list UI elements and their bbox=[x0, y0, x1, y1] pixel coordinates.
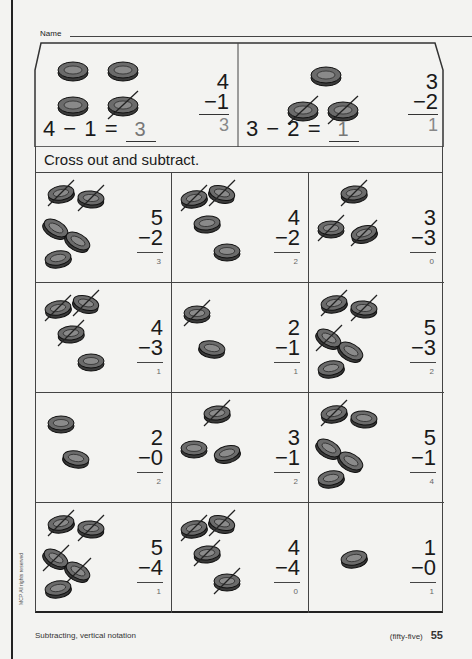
crossed-coin[interactable] bbox=[345, 214, 384, 253]
coin[interactable] bbox=[317, 469, 346, 490]
vertical-problem: 4 −4 0 bbox=[268, 538, 300, 596]
subtrahend: −2 bbox=[131, 228, 163, 248]
coin[interactable] bbox=[193, 215, 220, 234]
crossed-coin[interactable] bbox=[349, 293, 380, 324]
result[interactable]: 3 bbox=[199, 115, 229, 135]
subtrahend: −3 bbox=[131, 338, 163, 358]
answer-rule bbox=[410, 472, 436, 473]
crossed-coin[interactable] bbox=[203, 174, 242, 213]
answer-rule bbox=[410, 362, 436, 363]
example-2-equation: 3 − 2 = 1 bbox=[246, 116, 359, 142]
subtrahend: −3 bbox=[404, 338, 436, 358]
page-footer: (fifty-five)55 bbox=[390, 629, 443, 641]
crossed-coin[interactable] bbox=[44, 176, 79, 211]
crossed-coin[interactable] bbox=[184, 300, 210, 326]
answer[interactable]: 2 bbox=[268, 477, 300, 486]
answer[interactable]: 2 bbox=[268, 257, 300, 266]
coin[interactable] bbox=[350, 410, 377, 429]
crossed-coin[interactable] bbox=[339, 178, 370, 209]
problem-cell: 2 −0 2 bbox=[36, 393, 172, 503]
coin[interactable] bbox=[197, 339, 226, 360]
crossed-coin[interactable] bbox=[56, 318, 87, 349]
result[interactable]: 1 bbox=[408, 115, 438, 135]
coin[interactable] bbox=[58, 62, 88, 81]
answer-rule bbox=[410, 252, 436, 253]
problem-cell: 3 −1 2 bbox=[172, 393, 309, 503]
example-1: 4 − 1 = 3 4 −1 3 bbox=[33, 40, 238, 147]
equation-text: 3 − 2 = bbox=[246, 116, 322, 141]
answer[interactable]: 1 bbox=[268, 367, 300, 376]
problem-cell: 1 −0 1 bbox=[309, 503, 444, 613]
answer-rule bbox=[274, 472, 300, 473]
answer[interactable]: 0 bbox=[268, 587, 300, 596]
answer-rule bbox=[274, 582, 300, 583]
coin[interactable] bbox=[214, 244, 240, 261]
problem-cell: 5 −4 1 bbox=[36, 503, 172, 613]
coin-group bbox=[172, 503, 267, 613]
crossed-coin[interactable] bbox=[108, 91, 138, 119]
answer-rule bbox=[137, 362, 163, 363]
crossed-coin[interactable] bbox=[203, 504, 242, 543]
coin[interactable] bbox=[311, 67, 341, 86]
name-write-line[interactable] bbox=[70, 36, 472, 37]
crossed-coin[interactable] bbox=[202, 398, 233, 429]
problem-cell: 2 −1 1 bbox=[172, 283, 309, 393]
answer[interactable]: 1 bbox=[131, 587, 163, 596]
coin[interactable] bbox=[48, 416, 74, 433]
subtrahend: −0 bbox=[404, 558, 436, 578]
coin[interactable] bbox=[78, 354, 104, 371]
coin-group bbox=[36, 173, 131, 283]
coin[interactable] bbox=[44, 579, 73, 600]
answer[interactable]: 3 bbox=[131, 257, 163, 266]
coin[interactable] bbox=[181, 441, 207, 458]
coin-group bbox=[309, 283, 404, 393]
crossed-coin[interactable] bbox=[317, 396, 352, 431]
crossed-coin[interactable] bbox=[177, 181, 212, 216]
answer-blank[interactable]: 1 bbox=[329, 118, 359, 142]
problem-cell: 4 −3 1 bbox=[36, 283, 172, 393]
coin[interactable] bbox=[108, 62, 138, 81]
vertical-problem: 5 −3 2 bbox=[404, 318, 436, 376]
coin-group bbox=[36, 503, 131, 613]
answer[interactable]: 4 bbox=[404, 477, 436, 486]
answer[interactable]: 1 bbox=[404, 587, 436, 596]
crossed-coin[interactable] bbox=[44, 506, 79, 541]
example-1-vertical: 4 −1 3 bbox=[199, 72, 229, 135]
crossed-coin[interactable] bbox=[317, 286, 352, 321]
coin-group bbox=[36, 283, 131, 393]
coin[interactable] bbox=[317, 359, 346, 380]
crossed-coin[interactable] bbox=[41, 291, 76, 326]
crossed-coin[interactable] bbox=[76, 183, 107, 214]
crossed-coin[interactable] bbox=[192, 538, 223, 569]
coin-group bbox=[309, 173, 404, 283]
answer[interactable]: 0 bbox=[404, 257, 436, 266]
coin[interactable] bbox=[340, 549, 369, 570]
subtrahend: −0 bbox=[131, 448, 163, 468]
copyright-note: MCP All rights reserved bbox=[18, 553, 24, 605]
coin[interactable] bbox=[213, 443, 243, 466]
crossed-coin[interactable] bbox=[177, 511, 212, 546]
answer-blank[interactable]: 3 bbox=[126, 118, 156, 142]
answer[interactable]: 1 bbox=[131, 367, 163, 376]
vertical-problem: 4 −2 2 bbox=[268, 208, 300, 266]
answer[interactable]: 2 bbox=[404, 367, 436, 376]
coin[interactable] bbox=[58, 97, 88, 116]
crossed-coin[interactable] bbox=[67, 284, 106, 323]
coin-group bbox=[172, 283, 267, 393]
subtrahend: −4 bbox=[268, 558, 300, 578]
coin-group bbox=[36, 393, 131, 503]
problem-cell: 5 −3 2 bbox=[309, 283, 444, 393]
binder-margin-line bbox=[11, 0, 13, 659]
crossed-coin[interactable] bbox=[214, 568, 240, 594]
example-1-equation: 4 − 1 = 3 bbox=[43, 116, 156, 142]
answer-rule bbox=[137, 582, 163, 583]
crossed-coin[interactable] bbox=[76, 513, 107, 544]
subtrahend: −2 bbox=[408, 92, 438, 112]
coin[interactable] bbox=[61, 449, 90, 470]
page-number-words: (fifty-five) bbox=[390, 632, 423, 641]
answer[interactable]: 2 bbox=[131, 477, 163, 486]
example-2-vertical: 3 −2 1 bbox=[408, 72, 438, 135]
coin[interactable] bbox=[44, 249, 73, 270]
vertical-problem: 5 −1 4 bbox=[404, 428, 436, 486]
crossed-coin[interactable] bbox=[318, 215, 344, 241]
